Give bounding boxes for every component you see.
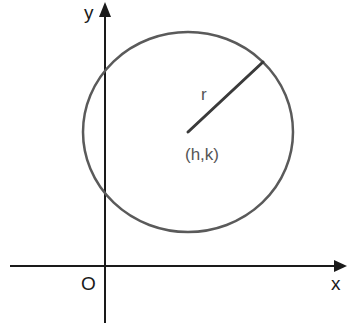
circle-diagram: [0, 0, 350, 323]
radius-line: [188, 62, 263, 132]
x-axis-arrow-icon: [334, 260, 347, 272]
center-label: (h,k): [185, 146, 219, 163]
origin-label: O: [81, 274, 96, 293]
x-axis-label: x: [331, 274, 341, 293]
y-axis-arrow-icon: [99, 2, 111, 17]
radius-label: r: [201, 86, 207, 103]
y-axis-label: y: [84, 3, 94, 22]
